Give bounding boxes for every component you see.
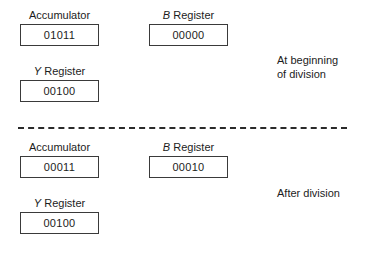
register-y-before: Y Register 00100 xyxy=(20,65,99,102)
register-label-text: Register xyxy=(173,9,214,21)
register-box-b-after: 00010 xyxy=(149,156,228,178)
register-box-b-before: 00000 xyxy=(149,24,228,46)
panel-caption-after: After division xyxy=(277,186,340,200)
register-box-y-before: 00100 xyxy=(20,80,99,102)
register-label-accumulator-before: Accumulator xyxy=(20,9,99,22)
division-register-figure: Accumulator 01011 B Register 00000 Y Reg… xyxy=(0,0,365,254)
register-accumulator-after: Accumulator 00011 xyxy=(20,141,99,178)
register-label-y-before: Y Register xyxy=(20,65,99,78)
register-value-b-after: 00010 xyxy=(172,161,204,174)
register-label-text: Register xyxy=(173,141,214,153)
register-value-accumulator-after: 00011 xyxy=(44,161,75,174)
register-b-before: B Register 00000 xyxy=(149,9,228,46)
register-label-text: Register xyxy=(44,65,85,77)
register-label-text: Accumulator xyxy=(29,141,90,153)
register-label-b-after: B Register xyxy=(149,141,228,154)
panel-caption-before: At beginning of division xyxy=(277,53,338,81)
register-label-italic-prefix: B xyxy=(163,9,170,21)
register-value-y-after: 00100 xyxy=(43,217,75,230)
register-label-y-after: Y Register xyxy=(20,197,99,210)
register-label-text: Accumulator xyxy=(29,9,90,21)
register-y-after: Y Register 00100 xyxy=(20,197,99,234)
register-label-accumulator-after: Accumulator xyxy=(20,141,99,154)
register-label-italic-prefix: B xyxy=(163,141,170,153)
register-value-y-before: 00100 xyxy=(43,85,75,98)
register-accumulator-before: Accumulator 01011 xyxy=(20,9,99,46)
register-box-accumulator-after: 00011 xyxy=(20,156,99,178)
register-label-italic-prefix: Y xyxy=(34,65,41,77)
register-box-y-after: 00100 xyxy=(20,212,99,234)
register-b-after: B Register 00010 xyxy=(149,141,228,178)
register-box-accumulator-before: 01011 xyxy=(20,24,99,46)
register-label-text: Register xyxy=(44,197,85,209)
register-label-b-before: B Register xyxy=(149,9,228,22)
register-value-b-before: 00000 xyxy=(172,29,204,42)
register-label-italic-prefix: Y xyxy=(34,197,41,209)
register-value-accumulator-before: 01011 xyxy=(44,29,75,42)
panel-divider xyxy=(18,127,347,129)
